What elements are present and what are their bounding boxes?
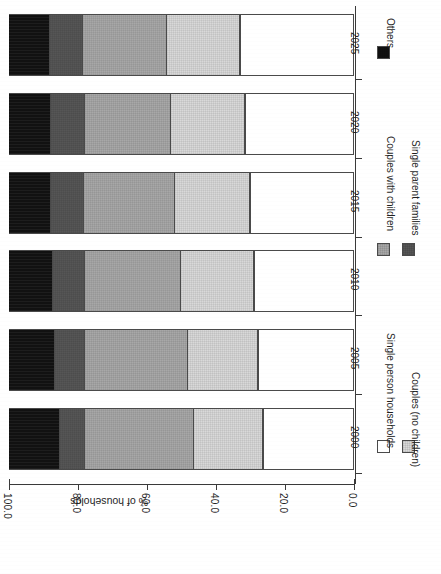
value-axis-tick [285, 484, 286, 490]
bar-segment [85, 93, 171, 155]
bar-segment [55, 329, 85, 391]
bar-segment [9, 250, 53, 312]
category-axis-tick-label: 2000 [349, 426, 360, 448]
household-composition-stacked-bar-chart: 100.080.060.040.020.00.0 200020052010201… [0, 0, 441, 574]
category-axis-tick [355, 394, 362, 395]
bar-segment [171, 93, 245, 155]
bar-segment [245, 93, 354, 155]
category-axis-tick [355, 473, 362, 474]
bar-segment [51, 172, 84, 234]
bar-row [9, 408, 354, 470]
category-axis-tick [355, 315, 362, 316]
bar-segment [85, 408, 194, 470]
bar-segment [9, 329, 55, 391]
value-axis-tick [78, 484, 79, 490]
plot-area [9, 6, 354, 484]
legend-label: Single parent families [410, 140, 421, 236]
bar-segment [250, 172, 354, 234]
category-axis-tick-label: 2015 [349, 190, 360, 212]
bar-segment [85, 329, 188, 391]
value-axis-tick [9, 479, 10, 490]
bar-segment [9, 93, 51, 155]
bar-segment [84, 172, 175, 234]
bar-row [9, 172, 354, 234]
value-axis-tick-label: 100.0 [2, 493, 13, 539]
bar-segment [175, 172, 250, 234]
bar-segment [263, 408, 354, 470]
bar-segment [181, 250, 254, 312]
value-axis-tick-label: 40.0 [209, 493, 220, 539]
bar-segment [85, 250, 181, 312]
bar-row [9, 93, 354, 155]
value-axis-tick-label: 0.0 [347, 493, 358, 539]
legend-label: Couples with children [385, 136, 396, 231]
legend-label: Couples (no children) [410, 372, 421, 467]
bar-segment [9, 408, 60, 470]
bar-segment [9, 14, 50, 76]
value-axis-tick [147, 484, 148, 490]
bar-segment [60, 408, 85, 470]
bar-row [9, 329, 354, 391]
category-axis [355, 6, 356, 484]
category-axis-tick [355, 79, 362, 80]
value-axis-tick-label: 20.0 [278, 493, 289, 539]
bar-segment [258, 329, 354, 391]
bar-segment [9, 172, 51, 234]
bars-container [9, 6, 354, 478]
legend-label: Single person households [385, 333, 396, 448]
legend-swatch [402, 243, 415, 256]
bar-segment [50, 14, 83, 76]
legend-label: Others [385, 18, 396, 48]
legend: Single person householdsCouples (no chil… [374, 0, 441, 574]
legend-swatch [377, 243, 390, 256]
value-axis-tick [216, 484, 217, 490]
bar-segment [194, 408, 263, 470]
category-axis-tick-label: 2010 [349, 268, 360, 290]
bar-row [9, 250, 354, 312]
category-axis-tick-label: 2020 [349, 111, 360, 133]
bar-segment [188, 329, 258, 391]
category-axis-tick [355, 158, 362, 159]
bar-segment [51, 93, 85, 155]
bar-segment [254, 250, 354, 312]
bar-segment [53, 250, 85, 312]
bar-segment [167, 14, 240, 76]
category-axis-tick [355, 237, 362, 238]
category-axis-tick-label: 2005 [349, 347, 360, 369]
bar-row [9, 14, 354, 76]
bar-segment [240, 14, 354, 76]
category-axis-tick-label: 2025 [349, 32, 360, 54]
bar-segment [83, 14, 167, 76]
value-axis-title: % of households [70, 496, 148, 508]
value-axis [9, 484, 354, 485]
